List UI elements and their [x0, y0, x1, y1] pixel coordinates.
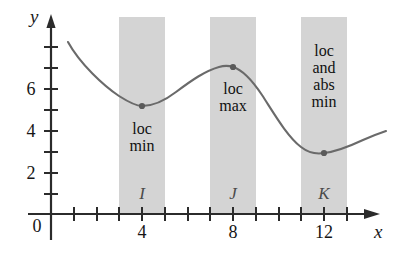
x-tick-label-12: 12 — [308, 222, 340, 243]
y-tick-label-6: 6 — [22, 79, 40, 100]
x-axis-label: x — [374, 221, 382, 243]
y-axis-label: y — [30, 6, 38, 28]
annotation-loc-abs-min: loc and abs min — [294, 42, 354, 110]
annotation-loc-max: loc max — [203, 80, 263, 114]
y-tick-label-4: 4 — [22, 121, 40, 142]
annotation-loc-min: loc min — [112, 120, 172, 154]
x-tick-label-8: 8 — [222, 222, 244, 243]
graph-figure: y x 0 4 8 12 2 4 6 I J K loc min loc max… — [0, 0, 400, 259]
band-letter-J: J — [210, 184, 256, 204]
band-letter-I: I — [119, 184, 165, 204]
local-max-point — [230, 64, 236, 70]
local-min-point — [139, 103, 145, 109]
absolute-min-point — [321, 150, 327, 156]
origin-label: 0 — [28, 216, 46, 237]
band-letter-K: K — [301, 184, 347, 204]
x-tick-label-4: 4 — [131, 222, 153, 243]
function-plot — [0, 0, 400, 259]
y-tick-label-2: 2 — [22, 163, 40, 184]
